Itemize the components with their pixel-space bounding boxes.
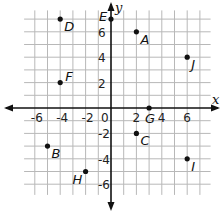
y-tick-label: 2	[98, 77, 106, 91]
point-dot-icon	[83, 169, 88, 174]
coordinate-plane: xy -6-4-20246642-2-4-6 ABCDEFGHIJ	[0, 0, 224, 213]
x-tick-label: 4	[158, 111, 166, 125]
point-label: G	[145, 111, 155, 126]
point-label: F	[65, 69, 73, 84]
point-label: C	[140, 133, 150, 148]
y-tick-label: 6	[98, 26, 106, 40]
y-axis-down-arrow-icon	[108, 202, 115, 211]
point-label: B	[52, 146, 61, 161]
point-dot-icon	[147, 105, 152, 110]
x-axis-label: x	[212, 92, 220, 107]
x-tick-label: 6	[183, 111, 191, 125]
x-axis-left-arrow-icon	[4, 105, 13, 112]
point-dot-icon	[108, 17, 113, 22]
y-tick-label: -6	[98, 178, 110, 192]
y-axis-up-arrow-icon	[108, 2, 115, 11]
point-dot-icon	[185, 55, 190, 60]
x-tick-label: -2	[82, 111, 94, 125]
point-dot-icon	[185, 156, 190, 161]
x-tick-label: -4	[56, 111, 68, 125]
x-tick-label: 2	[132, 111, 140, 125]
y-tick-label: -2	[98, 127, 110, 141]
point-label: A	[139, 32, 149, 47]
y-tick-label: 4	[98, 51, 106, 65]
y-tick-label: -4	[98, 153, 110, 167]
y-axis-label: y	[114, 0, 123, 15]
point-label: H	[73, 172, 83, 187]
point-label: I	[191, 159, 195, 174]
point-dot-icon	[134, 29, 139, 34]
point-label: D	[64, 19, 74, 34]
grid-lines	[24, 10, 211, 195]
x-tick-label: -6	[31, 111, 43, 125]
point-dot-icon	[58, 80, 63, 85]
point-label: E	[99, 9, 108, 24]
point-dot-icon	[45, 144, 50, 149]
plotted-points: ABCDEFGHIJ	[45, 9, 195, 186]
point-dot-icon	[58, 17, 63, 22]
x-tick-label: 0	[101, 111, 109, 125]
point-dot-icon	[134, 131, 139, 136]
